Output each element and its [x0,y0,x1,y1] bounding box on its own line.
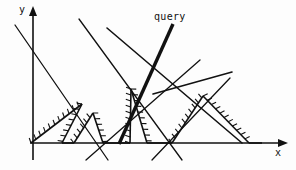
envelope-hatch-tick [232,124,237,126]
envelope-hatch-tick [58,141,63,142]
envelope-hatch-tick [179,124,182,128]
envelope-hatch-tick [63,113,65,118]
envelope-hatch-tick [237,128,242,130]
envelope-hatch-tick [211,102,216,104]
envelope-hatch-tick [216,107,221,109]
envelope-hatch-tick [220,111,225,113]
envelope-hatch-tick [58,116,60,121]
envelope-hatch-tick [74,134,77,138]
envelope-hatch-tick [63,130,68,131]
envelope-hatch-tick [198,94,201,98]
envelope-hatch-tick [67,109,69,114]
envelope-hatch-tick [53,120,55,125]
envelope-hatch-tick [69,119,74,120]
arrangement-lines-group [15,19,242,160]
x-axis-arrowhead [278,139,288,147]
envelope-hatch-tick [87,114,90,118]
envelope-hatch-tick [182,119,185,123]
envelope-hatch-tick [77,129,80,133]
line-6 [86,60,200,160]
envelope-hatch-tick [189,109,192,113]
y-axis-label: y [19,5,25,15]
envelope-hatch-tick [83,119,86,123]
query-label: query [154,12,186,22]
envelope-hatch-tick [48,123,50,128]
envelope-hatch-tick [66,124,71,125]
y-axis-arrowhead [29,6,37,16]
diagram-svg [0,0,296,170]
envelope-segment [203,96,249,143]
x-axis-label: x [275,148,281,158]
envelope-hatch-tick [195,99,198,103]
envelope-segment [93,113,103,143]
envelope-hatch-tick [241,132,246,134]
envelope-hatch-tick [77,102,79,107]
envelope-hatch-tick [185,114,188,118]
envelope-hatch-tick [203,94,208,96]
envelope-hatch-tick [44,127,46,132]
envelope-hatch-tick [175,129,178,133]
envelope-hatch-tick [60,135,65,136]
envelope-hatch-tick [39,131,41,136]
envelope-hatch-tick [228,119,233,121]
envelope-hatch-tick [224,115,229,117]
envelope-hatch-tick [245,137,250,139]
envelope-hatch-tick [192,104,195,108]
envelope-hatch-tick [34,134,36,139]
line-1 [15,25,108,160]
figure-canvas: y x query [0,0,296,170]
envelope-segment [172,96,203,143]
